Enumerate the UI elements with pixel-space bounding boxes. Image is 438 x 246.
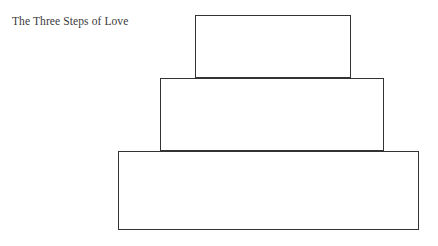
pyramid-step-top[interactable] bbox=[195, 15, 351, 78]
pyramid-step-bottom[interactable] bbox=[118, 151, 419, 230]
pyramid-step-middle[interactable] bbox=[160, 78, 384, 151]
diagram-canvas: The Three Steps of Love bbox=[0, 0, 438, 246]
page-title: The Three Steps of Love bbox=[12, 14, 128, 28]
